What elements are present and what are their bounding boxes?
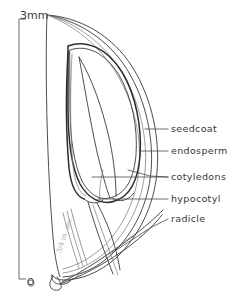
scale-bar — [19, 19, 34, 286]
label-seedcoat: seedcoat — [171, 124, 217, 134]
cotyledon-blade — [79, 57, 116, 200]
leader-cotyledons-right — [128, 170, 168, 177]
label-cotyledons: cotyledons — [171, 172, 226, 182]
label-radicle: radicle — [171, 214, 206, 224]
endosperm-left-wall — [67, 52, 84, 199]
scale-bar-top-label: 3mm — [20, 10, 48, 21]
endosperm-cavity — [67, 44, 141, 203]
label-endosperm: endosperm — [171, 146, 228, 156]
endosperm-left-wall-inner — [71, 54, 86, 196]
cotyledon-right-margin — [79, 57, 116, 196]
hypocotyl-mid-line — [93, 205, 118, 275]
label-hypocotyl: hypocotyl — [171, 194, 221, 204]
seedcoat-left-flank — [46, 15, 60, 277]
scale-bar-zero-label: O — [27, 278, 34, 287]
seed-anatomy-figure: 3mm O 3/4 in. sec. seedcoat endosperm co… — [0, 0, 232, 302]
